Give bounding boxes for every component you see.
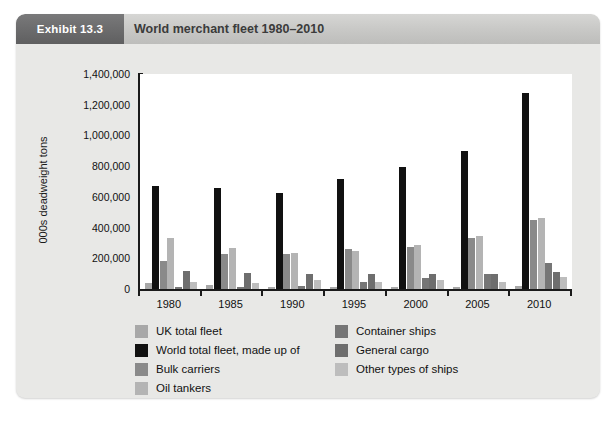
x-axis-tick-mark	[323, 291, 325, 296]
y-axis-tick-label: 800,000	[60, 160, 130, 172]
legend-item: Bulk carriers	[135, 360, 220, 378]
bar	[283, 254, 290, 289]
bar	[453, 287, 460, 289]
y-axis-tick-label: 1,200,000	[60, 99, 130, 111]
legend-label: Oil tankers	[156, 382, 211, 394]
x-axis-tick-label: 1990	[262, 298, 322, 310]
legend-swatch-icon	[135, 363, 148, 376]
bar	[407, 247, 414, 289]
bar-group-1990	[268, 74, 321, 289]
legend-label: Bulk carriers	[156, 363, 220, 375]
bar	[476, 236, 483, 289]
x-axis-tick-mark	[138, 291, 140, 296]
bar	[468, 238, 475, 289]
bar	[553, 272, 560, 289]
bar	[167, 238, 174, 289]
exhibit-title: World merchant fleet 1980–2010	[134, 14, 324, 44]
bar	[298, 286, 305, 289]
bar-group-2010	[515, 74, 568, 289]
x-axis-tick-label: 2000	[386, 298, 446, 310]
bar	[484, 274, 491, 289]
legend-label: Other types of ships	[356, 363, 458, 375]
y-axis-tick-label: 600,000	[60, 191, 130, 203]
bar	[276, 193, 283, 289]
bar	[560, 277, 567, 289]
x-axis-tick-mark	[570, 291, 572, 296]
plot-area	[138, 74, 572, 291]
bar	[345, 249, 352, 289]
bar	[237, 287, 244, 289]
y-axis-tick-label: 1,000,000	[60, 129, 130, 141]
bar	[229, 248, 236, 289]
bar-group-1980	[145, 74, 198, 289]
legend-item: UK total fleet	[135, 322, 222, 340]
bar-group-1985	[206, 74, 259, 289]
x-axis-tick-mark	[200, 291, 202, 296]
bar	[437, 280, 444, 289]
exhibit-card: Exhibit 13.3 World merchant fleet 1980–2…	[16, 14, 600, 398]
legend-swatch-icon	[135, 344, 148, 357]
bar	[152, 186, 159, 289]
bar	[545, 263, 552, 289]
legend-item: Other types of ships	[335, 360, 458, 378]
y-axis-tick-label: 0	[60, 283, 130, 295]
y-axis-tick-label: 200,000	[60, 252, 130, 264]
bar	[145, 283, 152, 289]
bar	[399, 167, 406, 289]
legend-item: Oil tankers	[135, 379, 211, 397]
bar	[522, 93, 529, 289]
x-axis-tick-label: 1980	[139, 298, 199, 310]
chart-area: 000s deadweight tons 0200,000400,000600,…	[16, 44, 600, 398]
bar	[291, 253, 298, 289]
bar	[491, 274, 498, 289]
bar	[530, 220, 537, 289]
bar	[422, 278, 429, 289]
bar	[190, 282, 197, 289]
legend-item: World total fleet, made up of	[135, 341, 300, 359]
legend-item: General cargo	[335, 341, 429, 359]
exhibit-number-tag: Exhibit 13.3	[16, 14, 124, 44]
y-axis-label: 000s deadweight tons	[37, 115, 49, 265]
bar-group-2000	[391, 74, 444, 289]
bar	[306, 274, 313, 289]
legend-label: UK total fleet	[156, 325, 222, 337]
x-axis-tick-mark	[447, 291, 449, 296]
bars-layer	[140, 74, 572, 289]
legend-label: General cargo	[356, 344, 429, 356]
bar	[461, 151, 468, 289]
legend-label: World total fleet, made up of	[156, 344, 300, 356]
bar	[183, 271, 190, 289]
bar	[221, 254, 228, 289]
x-axis: 1980198519901995200020052010	[138, 291, 572, 317]
bar	[352, 251, 359, 289]
bar	[429, 274, 436, 289]
bar	[375, 282, 382, 289]
legend-label: Container ships	[356, 325, 436, 337]
x-axis-tick-mark	[385, 291, 387, 296]
bar	[244, 273, 251, 289]
bar	[206, 285, 213, 289]
bar	[314, 280, 321, 289]
bar-group-1995	[330, 74, 383, 289]
bar	[414, 245, 421, 289]
bar	[214, 188, 221, 289]
bar	[538, 218, 545, 289]
y-axis-tick-label: 400,000	[60, 222, 130, 234]
legend-swatch-icon	[135, 382, 148, 395]
bar	[360, 282, 367, 289]
page-root: Exhibit 13.3 World merchant fleet 1980–2…	[0, 0, 616, 422]
bar-group-2005	[453, 74, 506, 289]
legend-item: Container ships	[335, 322, 436, 340]
x-axis-tick-label: 2005	[447, 298, 507, 310]
chart-legend: UK total fleetWorld total fleet, made up…	[135, 322, 555, 398]
bar	[515, 286, 522, 289]
legend-swatch-icon	[335, 344, 348, 357]
bar	[499, 282, 506, 289]
bar	[391, 287, 398, 289]
y-axis-tick-label: 1,400,000	[60, 68, 130, 80]
x-axis-tick-label: 2010	[509, 298, 569, 310]
x-axis-tick-label: 1985	[201, 298, 261, 310]
bar	[252, 283, 259, 289]
bar	[160, 261, 167, 289]
bar	[175, 287, 182, 289]
